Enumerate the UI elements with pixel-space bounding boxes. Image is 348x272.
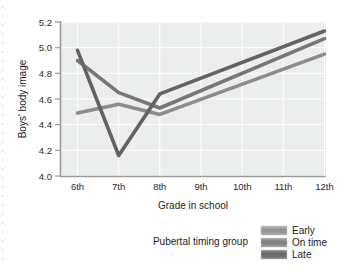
legend-label-late: Late (292, 249, 312, 260)
x-tick-label: 10th (233, 181, 252, 192)
legend-swatch-on-time (261, 238, 287, 247)
y-tick-label: 4.8 (39, 68, 52, 79)
y-tick-label: 5.0 (39, 42, 52, 53)
legend-swatch-early (261, 226, 287, 235)
legend-label-early: Early (292, 225, 315, 236)
page-edge-artifact (2, 6, 3, 264)
y-tick-label: 4.4 (39, 119, 52, 130)
figure-container: 5.2 5.0 4.8 4.6 4.4 4.2 4.0 6th 7th 8th … (0, 0, 348, 272)
y-tick-label: 4.2 (39, 145, 52, 156)
legend-item-early[interactable]: Early (261, 225, 315, 236)
x-tick-label: 6th (71, 181, 84, 192)
y-tick-label: 5.2 (39, 17, 52, 28)
line-chart: 5.2 5.0 4.8 4.6 4.4 4.2 4.0 6th 7th 8th … (0, 0, 348, 272)
legend-swatch-late (261, 250, 287, 259)
y-axis-tick-labels: 5.2 5.0 4.8 4.6 4.4 4.2 4.0 (39, 17, 52, 182)
x-axis-title: Grade in school (158, 200, 228, 211)
x-tick-label: 7th (112, 181, 125, 192)
x-tick-label: 11th (274, 181, 292, 192)
y-axis-title: Boys' body image (17, 59, 28, 138)
y-tick-label: 4.0 (39, 171, 52, 182)
x-tick-label: 12th (315, 181, 334, 192)
y-axis-ticks (55, 22, 60, 176)
x-axis-tick-labels: 6th 7th 8th 9th 10th 11th 12th (71, 181, 334, 192)
y-tick-label: 4.6 (39, 94, 52, 105)
legend-item-late[interactable]: Late (261, 249, 312, 260)
x-tick-label: 8th (153, 181, 166, 192)
legend-title: Pubertal timing group (153, 236, 248, 247)
x-tick-label: 9th (194, 181, 207, 192)
legend-label-on-time: On time (292, 237, 327, 248)
legend-item-on-time[interactable]: On time (261, 237, 327, 248)
